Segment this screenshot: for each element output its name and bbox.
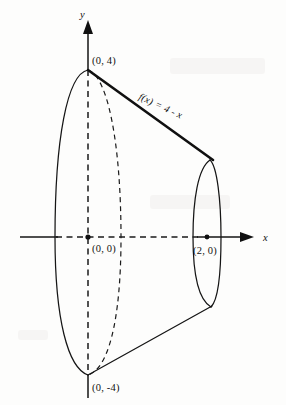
x-axis-arrowhead <box>240 232 254 242</box>
y-axis-label: y <box>79 9 85 20</box>
left-ellipse-far-half-solid <box>55 70 88 375</box>
solid-of-revolution-diagram: y x (0, 4) (0, 0) (2, 0) (0, -4) f(x) = … <box>0 0 286 405</box>
function-label: f(x) = 4 - x <box>137 91 185 122</box>
point-label-origin: (0, 0) <box>92 243 116 255</box>
right-ellipse-left-half <box>193 160 211 307</box>
right-ellipse-right-half <box>210 160 221 307</box>
x-two-point-dot <box>205 235 210 240</box>
lower-generator-line <box>88 306 212 375</box>
right-top-ellipse <box>193 160 221 307</box>
upper-generator-line <box>88 70 213 160</box>
figure-container: y x (0, 4) (0, 0) (2, 0) (0, -4) f(x) = … <box>0 0 286 405</box>
y-axis-arrowhead <box>83 20 93 34</box>
origin-point-dot <box>85 234 90 239</box>
point-label-0-minus-4: (0, -4) <box>92 382 120 394</box>
x-axis-label: x <box>262 232 268 243</box>
left-ellipse-near-half-dashed <box>88 70 121 375</box>
point-label-2-0: (2, 0) <box>193 245 217 257</box>
point-label-0-4: (0, 4) <box>92 55 116 67</box>
